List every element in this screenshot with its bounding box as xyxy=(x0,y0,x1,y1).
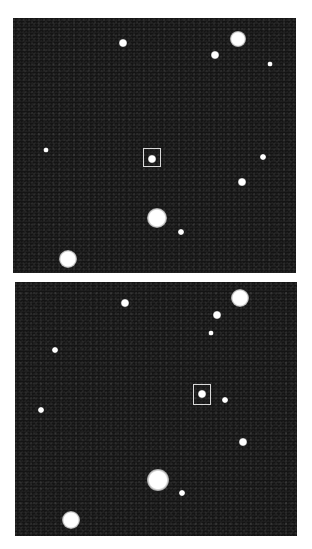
star xyxy=(211,51,219,59)
star xyxy=(147,208,167,228)
star xyxy=(239,438,247,446)
star xyxy=(44,148,49,153)
star xyxy=(230,31,246,47)
target-marker-box xyxy=(193,384,211,405)
star xyxy=(231,289,249,307)
star xyxy=(222,397,228,403)
star xyxy=(121,299,129,307)
star xyxy=(38,407,44,413)
sky-noise xyxy=(13,18,296,273)
star xyxy=(179,490,185,496)
star xyxy=(119,39,127,47)
star-field-panel-top xyxy=(13,18,296,273)
star xyxy=(268,62,273,67)
star-field-panel-bottom xyxy=(15,282,297,536)
star xyxy=(209,331,214,336)
star xyxy=(178,229,184,235)
star xyxy=(238,178,246,186)
sky-noise xyxy=(15,282,297,536)
target-marker-box xyxy=(143,148,161,167)
star xyxy=(62,511,80,529)
star xyxy=(260,154,266,160)
star xyxy=(52,347,58,353)
star xyxy=(59,250,77,268)
star xyxy=(213,311,221,319)
star xyxy=(147,469,169,491)
